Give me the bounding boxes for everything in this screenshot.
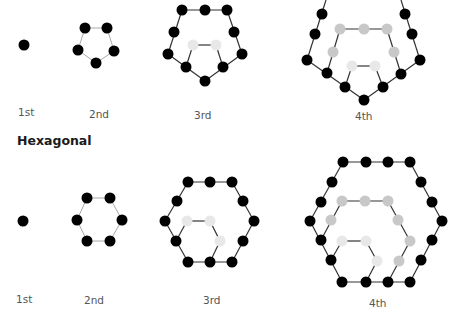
hexagonal-3rd-dot xyxy=(172,196,183,207)
hexagonal-4th-dot xyxy=(305,216,316,227)
hexagonal-4th-dot xyxy=(361,157,372,168)
pentagonal-4th-dot xyxy=(378,82,389,93)
hexagonal-3rd-dot xyxy=(182,216,193,227)
hexagonal-3rd-dot xyxy=(238,196,249,207)
pentagonal-4th-dot xyxy=(389,47,400,58)
hexagonal-4th-dot xyxy=(383,277,394,288)
figurate-numbers-diagram xyxy=(0,0,456,320)
hexagonal-4th-dot xyxy=(337,277,348,288)
hexagonal-2nd-dot xyxy=(82,193,93,204)
pentagonal-3rd-dot xyxy=(188,40,199,51)
pentagonal-4th-dot xyxy=(370,61,381,72)
hexagonal-3rd-dot xyxy=(160,216,171,227)
hexagonal-4th-dot xyxy=(327,177,338,188)
hexagonal-4th-dot xyxy=(393,215,404,226)
pentagonal-3rd-dot xyxy=(177,5,188,16)
hexagonal-2nd-dot xyxy=(105,236,116,247)
pentagonal-4th-dot xyxy=(322,68,333,79)
hexagonal-4th-dot xyxy=(405,236,416,247)
pentagonal-3rd-dot xyxy=(222,5,233,16)
hexagonal-3rd-dot xyxy=(238,236,249,247)
pentagonal-2nd-dot xyxy=(80,23,91,34)
pentagonal-4th-dot xyxy=(328,47,339,58)
hexagonal-4th-dot xyxy=(427,197,438,208)
pentagonal-label-1st: 1st xyxy=(18,106,34,118)
hexagonal-4th-dot xyxy=(405,277,416,288)
hexagonal-3rd-dot xyxy=(205,177,216,188)
pentagonal-4th-dot xyxy=(310,29,321,40)
hexagonal-3rd-dot xyxy=(183,177,194,188)
hexagonal-3rd-dot xyxy=(227,177,238,188)
pentagonal-2nd-dot xyxy=(102,23,113,34)
pentagonal-4th-dot xyxy=(347,61,358,72)
hexagonal-4th-edge xyxy=(410,162,442,221)
pentagonal-3rd-dot xyxy=(200,5,211,16)
hexagonal-4th-dot xyxy=(405,157,416,168)
hexagonal-4th-dot xyxy=(337,236,348,247)
edges-layer xyxy=(77,0,442,282)
pentagonal-label-3rd: 3rd xyxy=(194,109,211,121)
pentagonal-3rd-dot xyxy=(218,62,229,73)
pentagonal-3rd-dot xyxy=(237,49,248,60)
hexagonal-2nd-dot xyxy=(72,215,83,226)
hexagonal-4th-dot xyxy=(316,197,327,208)
hexagonal-4th-dot xyxy=(361,277,372,288)
hexagonal-4th-dot xyxy=(383,196,394,207)
hexagonal-2nd-dot xyxy=(117,215,128,226)
pentagonal-4th-dot xyxy=(340,82,351,93)
pentagonal-4th-dot xyxy=(396,69,407,80)
pentagonal-4th-dot xyxy=(317,9,328,20)
pentagonal-label-2nd: 2nd xyxy=(89,108,109,120)
pentagonal-4th-dot xyxy=(302,55,313,66)
hexagonal-3rd-dot xyxy=(215,236,226,247)
hexagonal-3rd-dot xyxy=(249,216,260,227)
pentagonal-3rd-dot xyxy=(163,49,174,60)
pentagonal-label-4th: 4th xyxy=(355,110,372,122)
hexagonal-4th-dot xyxy=(338,157,349,168)
hexagonal-4th-dot xyxy=(427,235,438,246)
hexagonal-label-4th: 4th xyxy=(369,297,386,309)
hexagonal-4th-dot xyxy=(437,216,448,227)
hexagonal-2nd-dot xyxy=(82,236,93,247)
pentagonal-3rd-dot xyxy=(211,40,222,51)
hexagonal-4th-dot xyxy=(394,256,405,267)
hexagonal-1st-dot xyxy=(18,216,29,227)
hexagonal-4th-dot xyxy=(372,256,383,267)
pentagonal-2nd-dot xyxy=(109,46,120,57)
hexagonal-4th-dot xyxy=(383,157,394,168)
section-title-hexagonal: Hexagonal xyxy=(17,133,92,148)
hexagonal-4th-dot xyxy=(316,235,327,246)
pentagonal-3rd-dot xyxy=(229,27,240,38)
pentagonal-4th-dot xyxy=(359,24,370,35)
pentagonal-4th-dot xyxy=(407,29,418,40)
pentagonal-2nd-dot xyxy=(73,45,84,56)
hexagonal-2nd-dot xyxy=(105,193,116,204)
hexagonal-4th-edge xyxy=(310,162,343,221)
hexagonal-4th-dot xyxy=(360,196,371,207)
pentagonal-3rd-dot xyxy=(169,27,180,38)
hexagonal-4th-dot xyxy=(416,255,427,266)
hexagonal-4th-dot xyxy=(416,177,427,188)
hexagonal-label-2nd: 2nd xyxy=(84,294,104,306)
pentagonal-3rd-dot xyxy=(181,62,192,73)
pentagonal-2nd-dot xyxy=(91,58,102,69)
hexagonal-3rd-dot xyxy=(183,257,194,268)
hexagonal-3rd-dot xyxy=(205,257,216,268)
hexagonal-4th-dot xyxy=(361,236,372,247)
pentagonal-4th-dot xyxy=(400,9,411,20)
pentagonal-4th-dot xyxy=(359,95,370,106)
pentagonal-4th-dot xyxy=(382,24,393,35)
hexagonal-4th-edge xyxy=(410,221,442,282)
hexagonal-3rd-dot xyxy=(205,216,216,227)
hexagonal-4th-dot xyxy=(337,196,348,207)
hexagonal-4th-dot xyxy=(326,255,337,266)
hexagonal-4th-dot xyxy=(326,215,337,226)
pentagonal-4th-dot xyxy=(415,55,426,66)
pentagonal-4th-dot xyxy=(335,24,346,35)
pentagonal-1st-dot xyxy=(19,40,30,51)
hexagonal-3rd-dot xyxy=(171,236,182,247)
hexagonal-label-3rd: 3rd xyxy=(203,294,220,306)
hexagonal-3rd-dot xyxy=(227,257,238,268)
pentagonal-3rd-dot xyxy=(200,76,211,87)
hexagonal-label-1st: 1st xyxy=(16,293,32,305)
